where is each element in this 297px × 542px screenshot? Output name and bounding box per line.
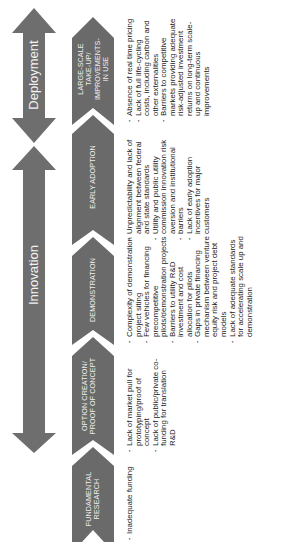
barrier-item: Barriers to utility R&D investment and c… (169, 233, 195, 343)
stage-label-option-creation: OPTION CREATION/ PROOF OF CONCEPT (81, 355, 98, 437)
barrier-item: Barriers to competitive markets providin… (160, 17, 211, 122)
barriers-fundamental-research: Inadequate funding (126, 450, 135, 540)
barrier-item: Gaps in private financing mechanism betw… (194, 233, 228, 343)
barriers-demonstration: Complexity of demonstration project siti… (126, 233, 254, 343)
stage-label-demonstration: DEMONSTRATION (89, 250, 97, 330)
barriers-large-scale: Absence of real time pricing Lack of ful… (126, 17, 211, 122)
innovation-label: Innovation (26, 210, 41, 340)
barrier-item: Lack of market pull for prototyping/proo… (126, 352, 152, 452)
barrier-item: Utility and public utility commission in… (152, 130, 178, 240)
barrier-item: Unpredictability and lack of alignment b… (126, 130, 152, 240)
deployment-label: Deployment (26, 40, 41, 110)
barrier-item: Inadequate funding (126, 450, 135, 540)
barrier-item: Lack of early adoption incentives for ma… (186, 130, 212, 240)
barrier-item: Complexity of demonstration project siti… (126, 233, 143, 343)
barrier-item: Lack of public/private co-funding for tr… (152, 352, 178, 452)
barrier-item: Lack of full life-cycling costs, includi… (135, 17, 161, 122)
barriers-option-creation: Lack of market pull for prototyping/proo… (126, 352, 177, 452)
barrier-item: Few vehicles for financing precompetitiv… (143, 233, 169, 343)
stage-label-large-scale: LARGE-SCALE TAKE-UP/ IMPROVEMENTS- IN US… (77, 36, 111, 102)
barrier-item: Lack of adequate standards for accelerat… (229, 233, 255, 343)
barriers-early-adoption: Unpredictability and lack of alignment b… (126, 130, 211, 240)
stage-label-fundamental-research: FUNDAMENTAL RESEARCH (85, 466, 102, 532)
stage-label-early-adoption: EARLY ADOPTION (89, 132, 97, 222)
